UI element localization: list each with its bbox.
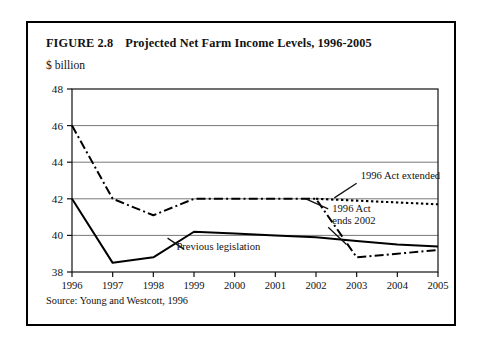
series-line-previous-legislation — [72, 199, 438, 263]
y-tick-label-38: 38 — [52, 266, 64, 278]
x-tick-label-2003: 2003 — [346, 280, 367, 291]
x-tick-label-2001: 2001 — [265, 280, 286, 291]
leader-1996-act-extended — [334, 183, 356, 198]
x-tick-label-2004: 2004 — [387, 280, 409, 291]
source-note: Source: Young and Westcott, 1996 — [46, 295, 188, 306]
annotation-previous-legislation: Previous legislation — [176, 241, 261, 252]
leader-1996-act-ends-2002-upper — [306, 199, 328, 209]
figure-panel: FIGURE 2.8Projected Net Farm Income Leve… — [26, 21, 456, 326]
series-line-1996-act-ends-2002 — [72, 126, 438, 258]
y-tick-label-42: 42 — [52, 193, 63, 205]
line-chart: 384042444648 199619971998199920002001200… — [28, 23, 458, 328]
x-tick-label-2005: 2005 — [427, 280, 448, 291]
x-tick-label-1997: 1997 — [102, 280, 123, 291]
annotation-ends-2002: ends 2002 — [332, 215, 375, 226]
y-axis-ticks: 384042444648 — [52, 83, 72, 278]
y-tick-label-48: 48 — [52, 83, 64, 95]
annotation-1996-act: 1996 Act — [332, 203, 371, 214]
chart-annotations: 1996 Act extended1996 Actends 2002Previo… — [176, 170, 440, 252]
x-tick-label-1998: 1998 — [143, 280, 164, 291]
x-tick-label-1996: 1996 — [61, 280, 82, 291]
x-tick-label-1999: 1999 — [183, 280, 204, 291]
x-tick-label-2002: 2002 — [305, 280, 326, 291]
y-tick-label-46: 46 — [52, 120, 64, 132]
annotation-1996-act-extended: 1996 Act extended — [361, 170, 441, 181]
y-tick-label-40: 40 — [52, 229, 64, 241]
x-axis-ticks: 1996199719981999200020012002200320042005 — [61, 272, 448, 291]
x-tick-label-2000: 2000 — [224, 280, 245, 291]
chart-plot-area: 384042444648 199619971998199920002001200… — [28, 23, 458, 328]
y-tick-label-44: 44 — [52, 156, 64, 168]
